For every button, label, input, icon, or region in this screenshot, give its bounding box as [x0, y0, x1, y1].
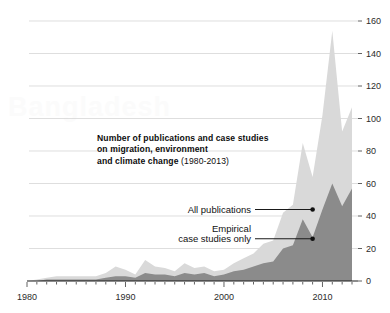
chart-title-years: (1980-2013) — [179, 156, 229, 166]
leader-dot-empirical-case-studies — [310, 236, 315, 241]
annotation-empirical-line-2: case studies only — [178, 233, 251, 244]
chart-figure: Bangladesh 020406080100120140160 1980199… — [0, 0, 390, 313]
leader-dot-all-publications — [310, 207, 315, 212]
y-tick-label: 140 — [366, 49, 381, 59]
y-tick-label: 100 — [366, 114, 381, 124]
x-tick-label: 1980 — [17, 292, 37, 302]
chart-title-block: Number of publications and case studies … — [97, 133, 297, 167]
y-tick-label: 20 — [366, 244, 376, 254]
chart-title-line-3-main: and climate change — [97, 156, 179, 166]
y-tick-labels-group: 020406080100120140160 — [366, 16, 381, 286]
chart-title-line-2: on migration, environment — [97, 144, 297, 155]
chart-title-line-3: and climate change (1980-2013) — [97, 156, 297, 167]
y-tick-label: 120 — [366, 81, 381, 91]
y-tick-label: 40 — [366, 211, 376, 221]
y-tick-label: 60 — [366, 179, 376, 189]
annotation-all-publications: All publications — [188, 204, 252, 215]
y-tick-label: 80 — [366, 146, 376, 156]
x-tick-label: 2010 — [312, 292, 332, 302]
y-tick-label: 0 — [366, 276, 371, 286]
x-tick-labels-group: 1980199020002010 — [17, 292, 332, 302]
x-tick-label: 1990 — [115, 292, 135, 302]
y-tick-label: 160 — [366, 16, 381, 26]
x-tick-label: 2000 — [214, 292, 234, 302]
chart-title-line-1: Number of publications and case studies — [97, 133, 297, 144]
